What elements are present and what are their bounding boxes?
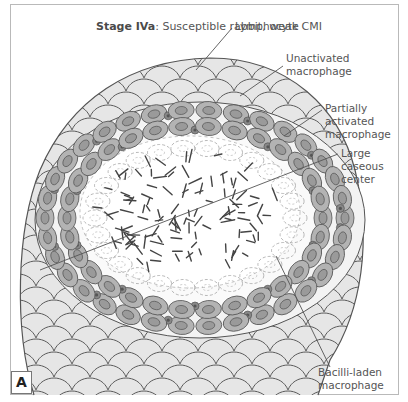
label-partially-activated-macrophage: Partially activated macrophage — [325, 102, 391, 141]
label-lymphocyte: Lymphocyte — [235, 20, 299, 33]
label-large-caseous-center: Large caseous center — [341, 147, 384, 186]
label-unactivated-macrophage: Unactivated macrophage — [286, 52, 352, 78]
title-stage: Stage IVa — [96, 20, 155, 33]
panel-letter: A — [11, 371, 32, 394]
label-bacilli-laden-macrophage: Bacilli-laden macrophage — [318, 366, 384, 392]
